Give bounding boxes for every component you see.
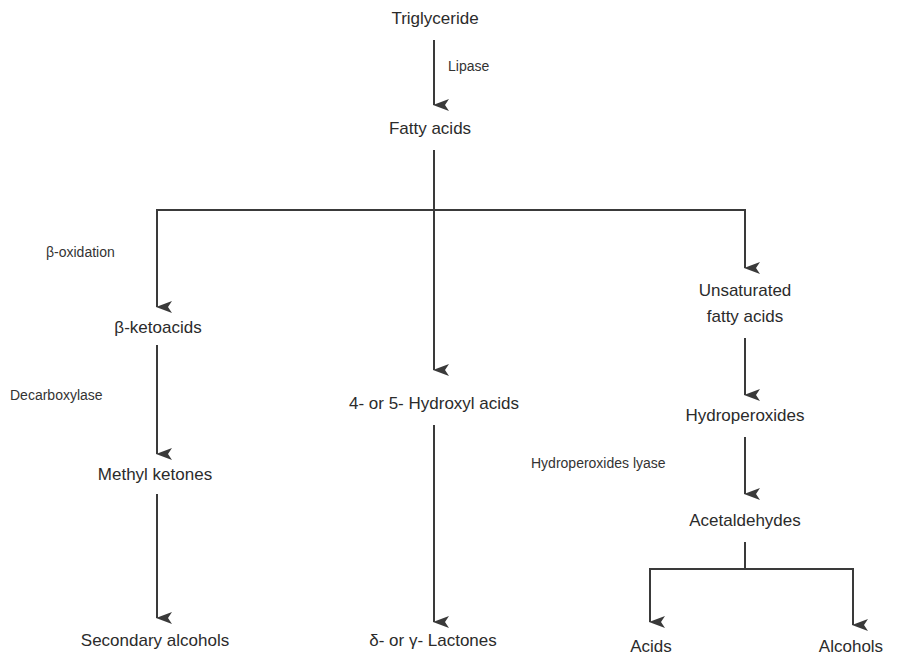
label-beta-oxidation: β-oxidation (46, 244, 115, 260)
node-hydroxyl-acids: 4- or 5- Hydroxyl acids (349, 394, 519, 414)
node-unsaturated-line2: fatty acids (707, 307, 784, 327)
node-secondary-alcohols: Secondary alcohols (81, 631, 229, 651)
split-bar (650, 569, 853, 625)
label-hydroperoxides-lyase: Hydroperoxides lyase (531, 455, 666, 471)
node-hydroperoxides: Hydroperoxides (685, 406, 804, 426)
node-unsaturated-line1: Unsaturated (699, 281, 792, 301)
node-lactones: δ- or γ- Lactones (369, 631, 497, 651)
branch-bar (157, 210, 745, 307)
pathway-diagram: Triglyceride Fatty acids β-ketoacids Met… (0, 0, 899, 664)
node-methyl-ketones: Methyl ketones (98, 465, 212, 485)
node-beta-ketoacids: β-ketoacids (114, 318, 201, 338)
label-decarboxylase: Decarboxylase (10, 387, 103, 403)
label-lipase: Lipase (448, 58, 489, 74)
node-triglyceride: Triglyceride (391, 9, 478, 29)
node-acetaldehydes: Acetaldehydes (689, 511, 801, 531)
node-fatty-acids: Fatty acids (389, 119, 471, 139)
node-alcohols: Alcohols (819, 637, 883, 657)
node-acids: Acids (630, 637, 672, 657)
